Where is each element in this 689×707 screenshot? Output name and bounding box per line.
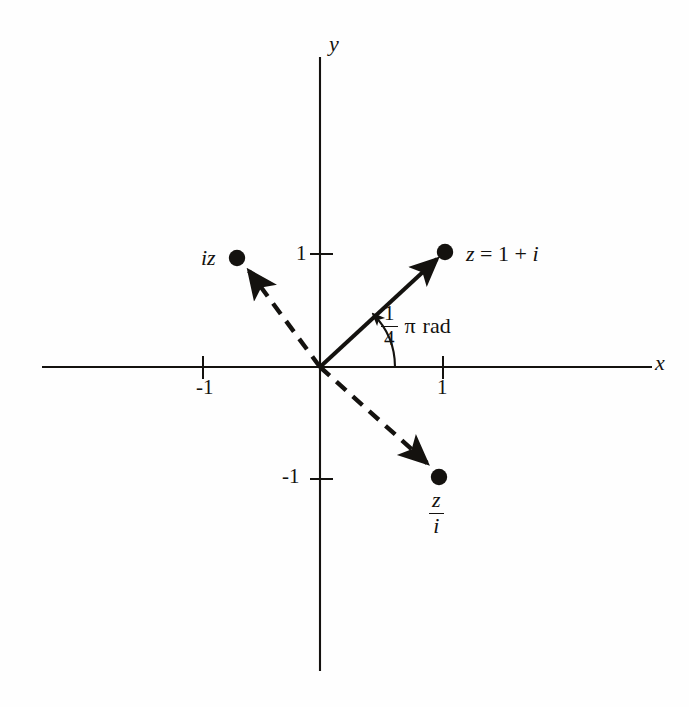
point-label-z: z = 1 + i (466, 243, 539, 265)
point-label-z-imaginary: i (532, 241, 538, 266)
fraction-z-over-i: z i (429, 489, 444, 538)
diagram-canvas (0, 0, 689, 707)
angle-unit-label: rad (423, 315, 451, 337)
angle-fraction-numerator: 1 (381, 303, 398, 326)
tick-label-x-neg-one: -1 (196, 377, 214, 398)
x-axis-label: x (655, 352, 665, 374)
point-label-iz: iz (201, 247, 216, 269)
point-marker-z (437, 244, 453, 260)
pi-symbol: π (405, 315, 416, 337)
angle-annotation: 1 4 π rad (381, 303, 451, 350)
fraction-denominator: i (429, 513, 444, 538)
angle-fraction: 1 4 (381, 303, 398, 350)
point-label-z-plus: + (514, 241, 526, 266)
point-marker-z-over-i (431, 469, 447, 485)
vector-z-over-i-line (320, 367, 427, 463)
vector-iz-line (249, 271, 320, 367)
axis-lines (42, 57, 652, 671)
fraction-numerator: z (429, 489, 444, 513)
vector-iz (229, 250, 320, 367)
point-marker-iz (229, 250, 245, 266)
y-axis-label: y (329, 33, 339, 55)
tick-label-y-pos-one: 1 (296, 243, 307, 264)
point-label-z-real: 1 (498, 241, 509, 266)
point-label-z-over-i: z i (429, 489, 444, 538)
tick-label-y-neg-one: -1 (282, 466, 300, 487)
angle-fraction-denominator: 4 (381, 326, 398, 350)
point-label-z-variable: z (466, 241, 475, 266)
vector-z-over-i (320, 367, 447, 485)
complex-plane-figure: y x -1 1 1 -1 z = 1 + i iz z i 1 4 π rad (0, 0, 689, 707)
tick-label-x-pos-one: 1 (437, 377, 448, 398)
point-label-z-equals: = (480, 241, 492, 266)
